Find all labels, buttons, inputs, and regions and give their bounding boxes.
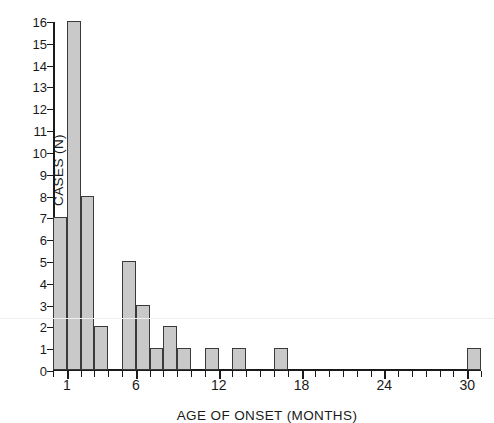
y-tick-label: 3 bbox=[17, 300, 47, 313]
y-tick bbox=[47, 22, 53, 23]
x-tick-label: 24 bbox=[377, 377, 393, 393]
x-tick-minor bbox=[288, 371, 289, 377]
y-tick bbox=[47, 131, 53, 132]
histogram-bar bbox=[94, 326, 108, 370]
x-tick-minor bbox=[357, 371, 358, 377]
x-tick-minor bbox=[163, 371, 164, 377]
y-tick-label: 10 bbox=[17, 147, 47, 160]
y-tick-label: 11 bbox=[17, 125, 47, 138]
y-tick-label: 14 bbox=[17, 60, 47, 73]
x-tick-label: 18 bbox=[294, 377, 310, 393]
histogram-bar bbox=[467, 348, 481, 370]
y-tick-label: 16 bbox=[17, 16, 47, 29]
histogram-bar bbox=[122, 261, 136, 370]
y-tick bbox=[47, 109, 53, 110]
x-tick-minor bbox=[205, 371, 206, 377]
x-tick-minor bbox=[150, 371, 151, 377]
x-axis-line bbox=[53, 369, 481, 371]
histogram-bar bbox=[53, 217, 67, 370]
x-tick-minor bbox=[343, 371, 344, 377]
histogram-bar bbox=[81, 196, 95, 371]
y-tick bbox=[47, 66, 53, 67]
x-tick-minor bbox=[412, 371, 413, 377]
x-tick-minor bbox=[81, 371, 82, 377]
x-tick-minor bbox=[398, 371, 399, 377]
x-tick-minor bbox=[315, 371, 316, 377]
x-tick-minor bbox=[481, 371, 482, 377]
x-tick-minor bbox=[371, 371, 372, 377]
plot-area: 012345678910111213141516 1612182430 CASE… bbox=[53, 22, 481, 371]
y-tick-label: 13 bbox=[17, 81, 47, 94]
y-tick-label: 9 bbox=[17, 169, 47, 182]
x-tick-label: 1 bbox=[63, 377, 71, 393]
y-tick-label: 4 bbox=[17, 278, 47, 291]
x-tick-minor bbox=[274, 371, 275, 377]
x-tick-minor bbox=[177, 371, 178, 377]
x-tick-minor bbox=[453, 371, 454, 377]
histogram-bar bbox=[177, 348, 191, 370]
y-tick-label: 6 bbox=[17, 234, 47, 247]
y-tick bbox=[47, 284, 53, 285]
x-tick-minor bbox=[426, 371, 427, 377]
y-tick bbox=[47, 44, 53, 45]
y-axis-title: CASES (N) bbox=[51, 134, 66, 206]
histogram-bar bbox=[163, 326, 177, 370]
y-tick-label: 15 bbox=[17, 38, 47, 51]
y-tick bbox=[47, 87, 53, 88]
x-tick-minor bbox=[94, 371, 95, 377]
x-tick-label: 30 bbox=[459, 377, 475, 393]
histogram-bar bbox=[274, 348, 288, 370]
histogram-bar bbox=[67, 21, 81, 370]
x-tick-label: 6 bbox=[132, 377, 140, 393]
histogram-bar bbox=[150, 348, 164, 370]
y-tick-label: 2 bbox=[17, 321, 47, 334]
x-tick-minor bbox=[108, 371, 109, 377]
y-tick bbox=[47, 327, 53, 328]
y-tick bbox=[47, 240, 53, 241]
x-tick-minor bbox=[191, 371, 192, 377]
y-tick-label: 12 bbox=[17, 103, 47, 116]
x-tick-minor bbox=[53, 371, 54, 377]
histogram-bar bbox=[136, 305, 150, 370]
y-tick-label: 0 bbox=[17, 365, 47, 378]
x-axis-title: AGE OF ONSET (MONTHS) bbox=[53, 408, 481, 423]
y-tick bbox=[47, 306, 53, 307]
histogram-bar bbox=[232, 348, 246, 370]
y-tick-label: 7 bbox=[17, 212, 47, 225]
x-tick-minor bbox=[122, 371, 123, 377]
x-tick-minor bbox=[329, 371, 330, 377]
y-tick bbox=[47, 262, 53, 263]
y-tick-label: 1 bbox=[17, 343, 47, 356]
y-tick-label: 5 bbox=[17, 256, 47, 269]
histogram-bar bbox=[205, 348, 219, 370]
x-tick-minor bbox=[246, 371, 247, 377]
x-tick-label: 12 bbox=[211, 377, 227, 393]
y-tick-label: 8 bbox=[17, 191, 47, 204]
y-tick bbox=[47, 349, 53, 350]
x-tick-minor bbox=[440, 371, 441, 377]
x-tick-minor bbox=[260, 371, 261, 377]
y-axis-tick-labels: 012345678910111213141516 bbox=[15, 22, 47, 371]
x-tick-minor bbox=[232, 371, 233, 377]
y-tick bbox=[47, 218, 53, 219]
